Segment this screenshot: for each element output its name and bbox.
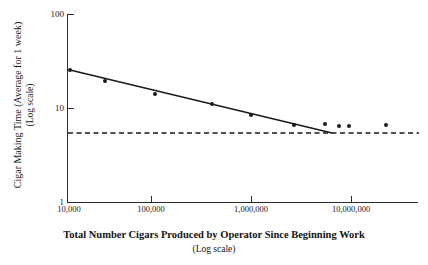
x-tick-10000000 [351,196,352,202]
data-point [384,123,388,127]
data-point [103,79,107,83]
y-axis-title-sub: (Log scale) [24,5,37,205]
y-tick-1 [68,202,74,203]
data-point [292,123,296,127]
data-point [347,124,351,128]
data-point [153,92,157,96]
x-tick-1000000 [251,196,252,202]
chart-lines [0,0,428,265]
y-tick-label-100: 100 [36,9,64,19]
y-tick-label-10: 10 [36,103,64,113]
y-axis-title-main: Cigar Making Time (Average for 1 week) [12,22,23,188]
data-point [323,122,327,126]
x-axis-line [67,202,418,203]
data-point [337,124,341,128]
data-point [249,113,253,117]
x-tick-label-1000000: 1,000,000 [234,204,268,214]
x-tick-label-10000: 10,000 [57,204,80,214]
cigar-learning-curve-figure: 100 10 1 10,000 100,000 1,000,000 10,000… [0,0,428,265]
x-tick-100000 [151,196,152,202]
x-axis-title-main: Total Number Cigars Produced by Operator… [63,229,365,240]
x-axis-title-sub: (Log scale) [0,242,428,256]
y-tick-100 [68,14,74,15]
x-tick-label-100000: 100,000 [137,204,165,214]
data-point [210,102,214,106]
x-tick-label-10000000: 10,000,000 [332,204,370,214]
y-axis-title: Cigar Making Time (Average for 1 week) (… [11,5,37,205]
y-tick-10 [68,108,74,109]
x-axis-title: Total Number Cigars Produced by Operator… [0,228,428,256]
data-point [68,68,72,72]
